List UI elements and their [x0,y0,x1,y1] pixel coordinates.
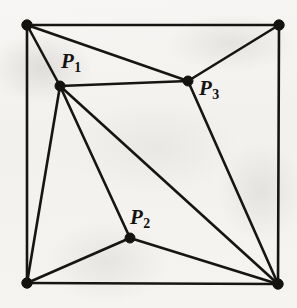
edge-tl-p3 [27,25,188,81]
vertex-label-p2-subscript: 2 [143,216,150,231]
vertex-label-p2: P2 [130,207,150,231]
bottom-border [27,283,278,284]
edge-p2-bl [27,238,130,283]
edge-p1-bl [27,86,60,283]
vertex-label-p1-subscript: 1 [74,60,81,75]
vertex-br [273,279,283,289]
vertex-tl [22,20,32,30]
vertex-tr [274,20,284,30]
vertex-label-p1: P1 [61,51,81,75]
edge-p1-p3 [60,81,188,86]
figure-container: P1 P2 P3 [0,0,297,308]
vertex-bl [22,278,32,288]
edge-p2-br [130,238,278,284]
edge-p3-br [188,81,278,284]
vertex-label-p3: P3 [199,78,219,102]
vertex-label-p3-subscript: 3 [212,87,219,102]
vertex-p1 [55,81,65,91]
vertex-p2 [125,233,135,243]
edge-tr-p3 [188,25,279,81]
triangulation-graph [0,0,297,308]
right-border [278,25,279,284]
edge-p1-p2 [60,86,130,238]
vertex-p3 [183,76,193,86]
